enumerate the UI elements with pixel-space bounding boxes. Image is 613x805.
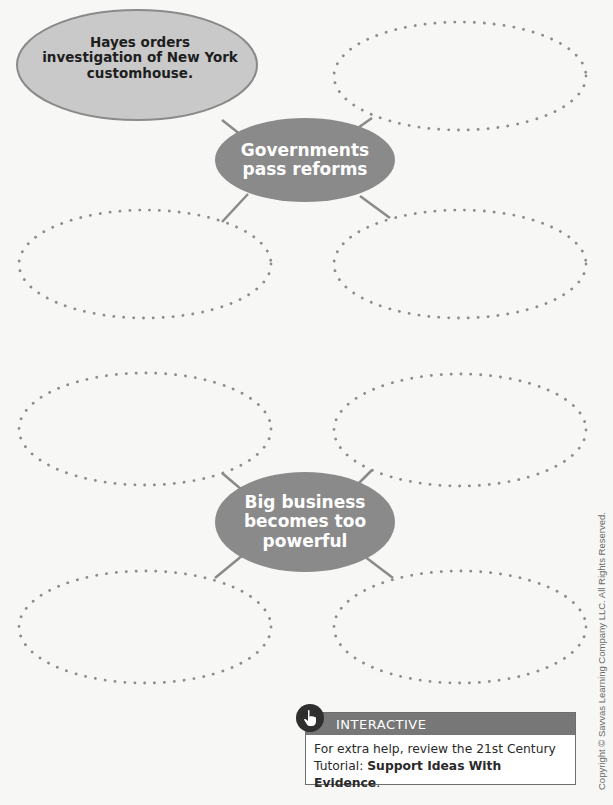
empty-node-lower-right[interactable] xyxy=(334,374,586,486)
concept-web-diagram xyxy=(0,0,613,805)
connector-line xyxy=(215,555,243,578)
connector-line xyxy=(222,194,248,222)
connector-line xyxy=(364,556,393,578)
hub-label-line: Governments xyxy=(241,141,369,160)
empty-node-bottom-right[interactable] xyxy=(334,571,586,683)
filled-node-line: customhouse. xyxy=(87,66,193,82)
hand-pointer-icon xyxy=(296,704,324,732)
empty-node-mid-left[interactable] xyxy=(19,210,271,318)
connector-line xyxy=(360,196,390,218)
empty-node-bottom-left[interactable] xyxy=(19,571,271,683)
interactive-callout[interactable]: INTERACTIVE For extra help, review the 2… xyxy=(305,712,576,785)
hub-big-business-label: Big business becomes too powerful xyxy=(225,488,385,556)
hub-label-line: pass reforms xyxy=(242,160,367,179)
filled-node-line: Hayes orders xyxy=(90,35,190,51)
hub-governments-label: Governments pass reforms xyxy=(225,128,385,192)
hub-label-line: powerful xyxy=(263,532,348,551)
empty-node-mid-right[interactable] xyxy=(334,210,586,318)
filled-node-text: Hayes orders investigation of New York c… xyxy=(40,20,240,96)
hub-label-line: Big business xyxy=(245,493,366,512)
hub-label-line: becomes too xyxy=(244,512,366,531)
copyright-notice: Copyright © Savvas Learning Company LLC.… xyxy=(596,512,607,790)
interactive-body-suffix: . xyxy=(376,776,380,790)
empty-node-lower-left[interactable] xyxy=(19,373,271,485)
interactive-body: For extra help, review the 21st Century … xyxy=(306,735,575,793)
filled-node-line: investigation of New York xyxy=(42,50,238,66)
empty-node-top-right[interactable] xyxy=(334,22,586,130)
interactive-header: INTERACTIVE xyxy=(306,713,575,735)
